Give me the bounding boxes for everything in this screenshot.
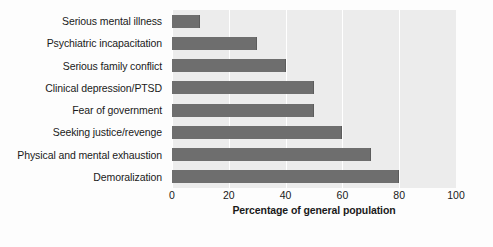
- x-axis-title: Percentage of general population: [172, 204, 456, 216]
- category-label: Serious family conflict: [0, 55, 168, 77]
- bar-row: [172, 32, 456, 54]
- category-label: Serious mental illness: [0, 10, 168, 32]
- bar-series: [172, 10, 456, 188]
- x-tick-label: 60: [337, 189, 349, 201]
- x-tick-label: 100: [447, 189, 465, 201]
- category-label: Seeking justice/revenge: [0, 121, 168, 143]
- bar-row: [172, 10, 456, 32]
- bar-chart-figure: Serious mental illnessPsychiatric incapa…: [0, 0, 493, 247]
- bar: [172, 81, 314, 94]
- category-axis-labels: Serious mental illnessPsychiatric incapa…: [0, 10, 168, 188]
- plot-area: [172, 10, 456, 188]
- x-tick-label: 0: [169, 189, 175, 201]
- bar: [172, 15, 200, 28]
- category-label: Fear of government: [0, 99, 168, 121]
- x-tick-label: 80: [393, 189, 405, 201]
- bar: [172, 37, 257, 50]
- category-label: Psychiatric incapacitation: [0, 32, 168, 54]
- bar: [172, 148, 371, 161]
- category-label: Clinical depression/PTSD: [0, 77, 168, 99]
- x-tick-label: 40: [280, 189, 292, 201]
- bar-row: [172, 99, 456, 121]
- x-axis-tick-labels: 020406080100: [172, 189, 456, 205]
- bar-row: [172, 166, 456, 188]
- bar-row: [172, 144, 456, 166]
- category-label: Demoralization: [0, 166, 168, 188]
- bar: [172, 170, 399, 183]
- bar: [172, 59, 286, 72]
- category-label: Physical and mental exhaustion: [0, 144, 168, 166]
- bar-row: [172, 55, 456, 77]
- bar-row: [172, 77, 456, 99]
- bar: [172, 126, 342, 139]
- x-tick-label: 20: [223, 189, 235, 201]
- bar: [172, 104, 314, 117]
- bar-row: [172, 121, 456, 143]
